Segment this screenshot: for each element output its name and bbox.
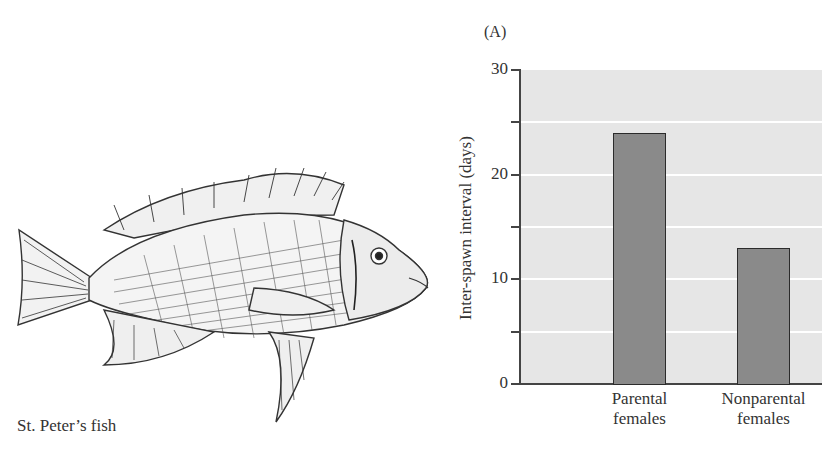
y-tick-label: 20 — [478, 164, 508, 184]
x-label-line: Nonparental — [704, 389, 822, 409]
y-tick — [511, 383, 520, 385]
x-label-nonparental-females: Nonparental females — [704, 389, 822, 429]
y-tick — [511, 69, 520, 71]
bar-parental-females — [613, 133, 666, 385]
gridline — [521, 226, 822, 228]
illustration-caption: St. Peter’s fish — [17, 416, 116, 436]
y-tick-label: 10 — [478, 268, 508, 288]
bar-nonparental-females — [737, 248, 790, 385]
fish-illustration-icon — [14, 160, 434, 430]
y-tick — [511, 278, 520, 280]
y-tick — [511, 174, 520, 176]
y-tick — [511, 226, 520, 228]
y-tick-label: 30 — [478, 59, 508, 79]
x-label-line: females — [704, 409, 822, 429]
y-axis-label: Inter-spawn interval (days) — [456, 136, 476, 320]
gridline — [521, 174, 822, 176]
y-tick — [511, 331, 520, 333]
x-label-line: Parental — [580, 389, 700, 409]
y-tick — [511, 121, 520, 123]
gridline — [521, 121, 822, 123]
panel-label: (A) — [484, 23, 506, 41]
x-label-line: females — [580, 409, 700, 429]
y-tick-label: 0 — [478, 373, 508, 393]
x-label-parental-females: Parental females — [580, 389, 700, 429]
